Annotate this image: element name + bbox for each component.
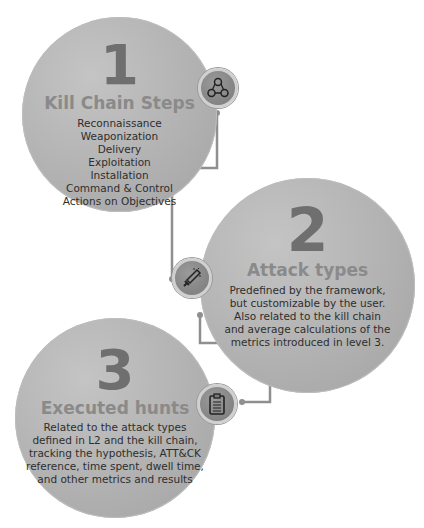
clipboard-icon — [197, 384, 237, 424]
list-item: Command & Control — [22, 182, 217, 195]
text-line: tracking the hypothesis, ATT&CK — [15, 447, 215, 460]
text-line: and other metrics and results — [15, 473, 215, 486]
text-line: reference, time spent, dwell time, — [15, 460, 215, 473]
step-number: 1 — [22, 37, 217, 93]
list-item: Reconnaissance — [22, 117, 217, 130]
step-3-circle: 3 Executed hunts Related to the attack t… — [15, 318, 215, 518]
network-nodes-icon — [198, 68, 238, 108]
step-2-circle: 2 Attack types Predefined by the framewo… — [200, 178, 415, 393]
step-description: Related to the attack types defined in L… — [15, 421, 215, 486]
sword-icon — [172, 258, 212, 298]
list-item: Delivery — [22, 143, 217, 156]
kill-chain-list: Reconnaissance Weaponization Delivery Ex… — [22, 117, 217, 208]
step-number: 2 — [200, 200, 415, 260]
step-title: Kill Chain Steps — [22, 93, 217, 113]
list-item: Installation — [22, 169, 217, 182]
list-item: Exploitation — [22, 156, 217, 169]
step-title: Attack types — [200, 260, 415, 280]
step-title: Executed hunts — [15, 398, 215, 418]
text-line: defined in L2 and the kill chain, — [15, 434, 215, 447]
list-item: Weaponization — [22, 130, 217, 143]
text-line: and average calculations of the — [200, 323, 415, 336]
step-1-circle: 1 Kill Chain Steps Reconnaissance Weapon… — [22, 17, 217, 212]
text-line: but customizable by the user. — [200, 297, 415, 310]
step-description: Predefined by the framework, but customi… — [200, 284, 415, 349]
text-line: Related to the attack types — [15, 421, 215, 434]
list-item: Actions on Objectives — [22, 195, 217, 208]
text-line: Also related to the kill chain — [200, 310, 415, 323]
text-line: Predefined by the framework, — [200, 284, 415, 297]
step-number: 3 — [15, 342, 215, 398]
text-line: metrics introduced in level 3. — [200, 336, 415, 349]
